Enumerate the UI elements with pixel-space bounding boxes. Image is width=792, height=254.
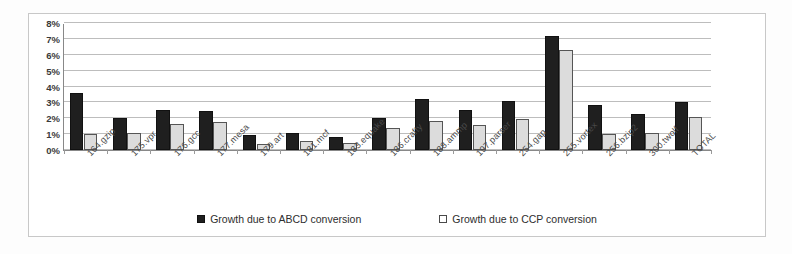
hollow-square-icon xyxy=(439,215,447,223)
legend-entry[interactable]: Growth due to CCP conversion xyxy=(439,213,597,225)
gridline xyxy=(64,22,711,23)
y-axis-tick-label: 5% xyxy=(30,67,60,77)
y-axis-tick-label: 1% xyxy=(30,130,60,140)
plot-inner xyxy=(63,24,711,151)
y-axis-tick-label: 4% xyxy=(30,83,60,93)
y-axis-tick-label: 0% xyxy=(30,146,60,156)
bar-abcd xyxy=(156,110,170,150)
y-axis-tick-label: 3% xyxy=(30,99,60,109)
y-axis-tick-label: 2% xyxy=(30,115,60,125)
bar-group xyxy=(64,24,107,150)
legend-label: Growth due to ABCD conversion xyxy=(210,213,361,225)
x-axis-tick xyxy=(711,150,712,154)
chart-legend: Growth due to ABCD conversionGrowth due … xyxy=(28,213,766,225)
bar-abcd xyxy=(243,135,257,150)
y-axis: 8%7%6%5%4%3%2%1%0% xyxy=(28,24,60,151)
y-axis-tick-label: 8% xyxy=(30,19,60,29)
y-axis-tick-label: 6% xyxy=(30,51,60,61)
plot-area xyxy=(63,24,711,151)
filled-square-icon xyxy=(197,215,205,223)
bar-group xyxy=(194,24,237,150)
bar-group xyxy=(280,24,323,150)
legend-entry[interactable]: Growth due to ABCD conversion xyxy=(197,213,361,225)
y-axis-tick-label: 7% xyxy=(30,35,60,45)
bar-abcd xyxy=(199,111,213,150)
chart-page: 8%7%6%5%4%3%2%1%0% 164.gzip175.vpr176.gc… xyxy=(0,0,792,254)
bar-abcd xyxy=(70,93,84,150)
legend-label: Growth due to CCP conversion xyxy=(452,213,597,225)
bar-abcd xyxy=(286,133,300,150)
bar-ccp xyxy=(559,50,573,150)
bar-group xyxy=(323,24,366,150)
x-axis-labels: 164.gzip175.vpr176.gcc177.mesa179.art181… xyxy=(63,151,711,209)
bar-group xyxy=(150,24,193,150)
bar-abcd xyxy=(329,137,343,150)
